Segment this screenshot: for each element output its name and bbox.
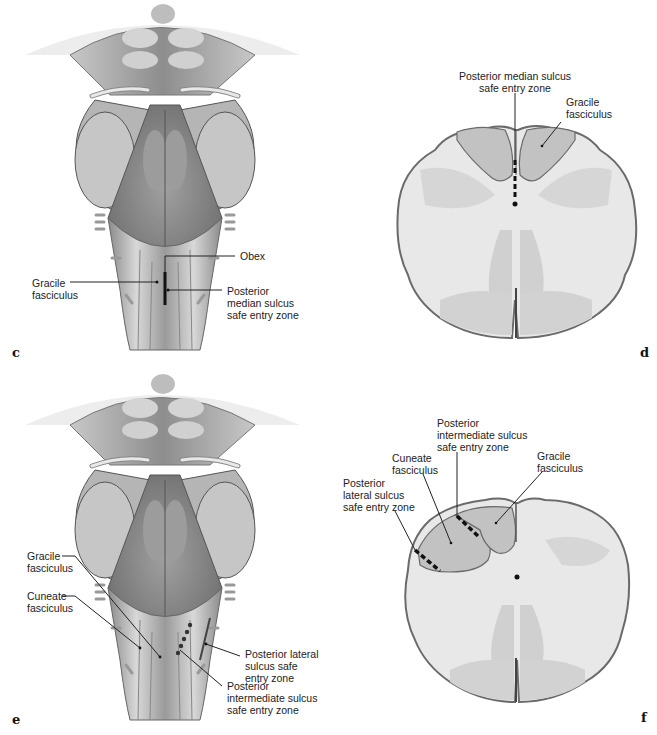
panel-d: Posterior median sulcus safe entry zone … [380,0,657,370]
label-gracile-fasciculus: Gracile fasciculus [537,450,583,474]
panel-label-c: c [12,345,20,360]
label-posterior-lateral-sulcus: Posterior lateral sulcus safe entry zone [343,477,415,513]
label-posterior-lateral-sulcus: Posterior lateral sulcus safe entry zone [245,648,319,684]
panel-e: Gracile fasciculus Cuneate fasciculus Po… [0,370,330,735]
label-obex: Obex [240,250,265,262]
label-posterior-intermediate-sulcus: Posterior intermediate sulcus safe entry… [227,680,317,716]
label-gracile-fasciculus: Gracile fasciculus [32,277,78,301]
panel-label-f: f [641,710,647,725]
label-posterior-median-sulcus: Posterior median sulcus safe entry zone [227,285,299,321]
panel-c: Obex Gracile fasciculus Posterior median… [0,0,330,370]
label-gracile-fasciculus: Gracile fasciculus [27,550,73,574]
label-posterior-intermediate-sulcus: Posterior intermediate sulcus safe entry… [437,417,527,453]
panel-f: Posterior intermediate sulcus safe entry… [330,370,657,735]
label-posterior-median-sulcus: Posterior median sulcus safe entry zone [455,70,575,94]
label-gracile-fasciculus: Gracile fasciculus [566,96,612,120]
label-cuneate-fasciculus: Cuneate fasciculus [27,590,73,614]
panel-label-e: e [12,712,20,727]
panel-label-d: d [640,345,649,360]
label-cuneate-fasciculus: Cuneate fasciculus [392,452,438,476]
medulla-axial-section [380,0,657,370]
